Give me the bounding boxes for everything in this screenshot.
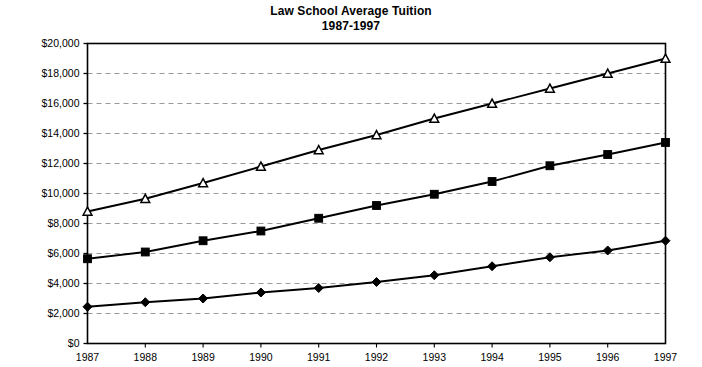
data-point-marker xyxy=(430,190,438,198)
chart-container: Law School Average Tuition 1987-1997 $0$… xyxy=(0,0,702,367)
x-tick-label: 1990 xyxy=(249,351,273,363)
data-point-marker xyxy=(199,237,207,245)
data-point-marker xyxy=(83,302,92,311)
y-tick-label: $0 xyxy=(68,337,80,349)
y-tick-label: $20,000 xyxy=(42,37,80,49)
data-point-marker xyxy=(430,271,439,280)
data-point-marker xyxy=(141,248,149,256)
y-tick-label: $12,000 xyxy=(42,157,80,169)
x-tick-label: 1991 xyxy=(307,351,331,363)
gridlines xyxy=(88,44,666,314)
data-point-marker xyxy=(141,298,150,307)
series-private xyxy=(83,54,670,215)
y-tick-label: $8,000 xyxy=(47,217,79,229)
data-point-marker xyxy=(661,54,670,62)
x-tick-label: 1995 xyxy=(538,351,562,363)
y-tick-label: $4,000 xyxy=(47,277,79,289)
y-tick-label: $2,000 xyxy=(47,307,79,319)
x-tick-label: 1989 xyxy=(191,351,215,363)
x-tick-label: 1994 xyxy=(480,351,504,363)
y-tick-label: $6,000 xyxy=(47,247,79,259)
data-point-marker xyxy=(256,288,265,297)
data-point-marker xyxy=(84,255,92,263)
data-point-marker xyxy=(661,236,670,245)
data-point-marker xyxy=(604,151,612,159)
y-tick-label: $18,000 xyxy=(42,67,80,79)
x-tick-label: 1988 xyxy=(134,351,158,363)
data-point-marker xyxy=(257,227,265,235)
data-point-marker xyxy=(488,262,497,271)
data-point-marker xyxy=(314,284,323,293)
x-axis-ticks: 1987198819891990199119921993199419951996… xyxy=(76,344,678,363)
data-point-marker xyxy=(372,278,381,287)
x-tick-label: 1997 xyxy=(654,351,678,363)
data-point-marker xyxy=(199,294,208,303)
series-line xyxy=(88,143,666,259)
y-tick-label: $14,000 xyxy=(42,127,80,139)
series-public-nonresident xyxy=(84,139,670,263)
x-tick-label: 1992 xyxy=(365,351,389,363)
data-series xyxy=(83,54,670,311)
x-tick-label: 1993 xyxy=(423,351,447,363)
data-point-marker xyxy=(315,214,323,222)
y-tick-label: $16,000 xyxy=(42,97,80,109)
data-point-marker xyxy=(546,162,554,170)
x-tick-label: 1996 xyxy=(596,351,620,363)
line-chart-plot: $0$2,000$4,000$6,000$8,000$10,000$12,000… xyxy=(0,0,702,367)
y-axis-ticks: $0$2,000$4,000$6,000$8,000$10,000$12,000… xyxy=(42,37,88,349)
data-point-marker xyxy=(488,178,496,186)
data-point-marker xyxy=(373,202,381,210)
data-point-marker xyxy=(545,253,554,262)
x-tick-label: 1987 xyxy=(76,351,100,363)
y-tick-label: $10,000 xyxy=(42,187,80,199)
series-line xyxy=(88,241,666,307)
data-point-marker xyxy=(662,139,670,147)
